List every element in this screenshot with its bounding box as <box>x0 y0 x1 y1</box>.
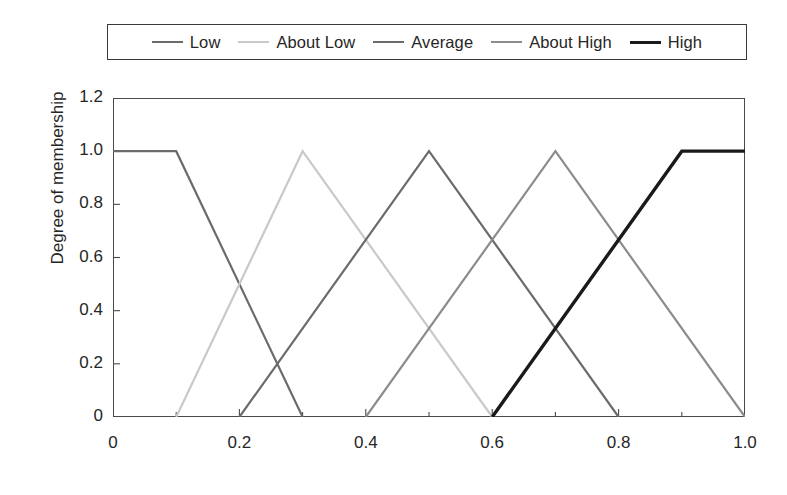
x-axis-tick-label: 0.6 <box>462 433 522 453</box>
membership-function-chart: LowAbout LowAverageAbout HighHigh Degree… <box>0 0 787 495</box>
legend-entry[interactable]: Average <box>364 33 482 52</box>
legend-label: Low <box>190 33 221 52</box>
y-axis-tick-label: 0.8 <box>59 193 103 213</box>
series-line <box>366 151 745 417</box>
legend-line-swatch <box>238 41 269 43</box>
y-axis-tick-label: 0.4 <box>59 300 103 320</box>
legend-entry[interactable]: About Low <box>229 33 364 52</box>
x-axis-tick-label: 0.2 <box>209 433 269 453</box>
chart-legend: LowAbout LowAverageAbout HighHigh <box>107 24 747 60</box>
legend-line-swatch <box>373 41 404 43</box>
y-axis-tick-label: 0.2 <box>59 353 103 373</box>
series-line <box>239 151 618 417</box>
legend-entry[interactable]: High <box>621 33 711 52</box>
y-axis-tick-label: 0.6 <box>59 247 103 267</box>
legend-line-swatch <box>152 41 183 43</box>
legend-line-swatch <box>630 41 661 44</box>
legend-entry[interactable]: About High <box>482 33 621 52</box>
series-line <box>492 151 745 417</box>
x-axis-tick-label: 1.0 <box>715 433 775 453</box>
legend-line-swatch <box>491 41 522 43</box>
y-axis-tick-label: 1.0 <box>59 140 103 160</box>
y-axis-tick-label: 0 <box>59 406 103 426</box>
series-line <box>113 151 303 417</box>
series-plot-canvas <box>113 98 745 417</box>
x-axis-tick-label: 0.8 <box>589 433 649 453</box>
legend-entry[interactable]: Low <box>143 33 230 52</box>
x-axis-tick-label: 0 <box>83 433 143 453</box>
x-axis-tick-label: 0.4 <box>336 433 396 453</box>
legend-label: About Low <box>276 33 355 52</box>
legend-label: Average <box>411 33 473 52</box>
y-axis-tick-label: 1.2 <box>59 87 103 107</box>
legend-label: About High <box>529 33 612 52</box>
legend-label: High <box>668 33 702 52</box>
